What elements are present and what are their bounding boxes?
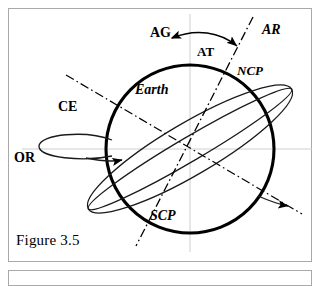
orbital-rotation-loop — [39, 134, 112, 158]
label-axis-of-rotation: AR — [262, 22, 281, 38]
figure-caption: Figure 3.5 — [16, 232, 80, 249]
label-earth: Earth — [135, 82, 168, 98]
label-axis-tilt: AT — [197, 44, 214, 60]
label-celestial-equator: CE — [58, 99, 77, 115]
label-north-celestial-pole: NCP — [237, 63, 263, 79]
label-orbital-rotation: OR — [14, 150, 35, 166]
label-south-celestial-pole: SCP — [150, 208, 176, 224]
orbital-rotation-arrowhead — [86, 158, 122, 161]
label-axis-of-globe: AG — [150, 25, 171, 41]
